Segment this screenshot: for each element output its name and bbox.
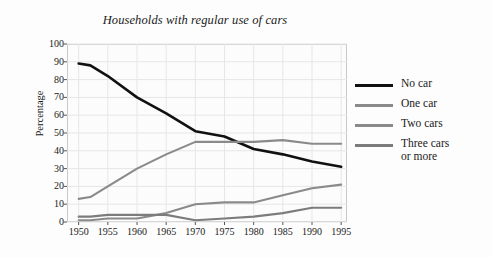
- y-tick-label: 50: [38, 128, 64, 138]
- x-axis-ticks: 1950195519601965197019751980198519901995: [67, 226, 347, 240]
- legend-item-label: No car: [401, 77, 432, 90]
- legend-item[interactable]: Three cars or more: [355, 138, 487, 155]
- series-line: [79, 64, 342, 167]
- legend-item-label: One car: [401, 97, 437, 110]
- legend-swatch-icon: [355, 104, 393, 107]
- y-tick-label: 100: [38, 39, 64, 49]
- legend-item-label: Two cars: [401, 117, 443, 130]
- chart-figure: Households with regular use of cars Perc…: [0, 0, 493, 257]
- data-series: [67, 44, 347, 222]
- y-tick-label: 70: [38, 92, 64, 102]
- chart-legend: No carOne carTwo carsThree cars or more: [355, 78, 487, 158]
- y-tick-label: 40: [38, 146, 64, 156]
- legend-item[interactable]: One car: [355, 98, 487, 115]
- legend-swatch-icon: [355, 124, 393, 127]
- y-tick-label: 20: [38, 181, 64, 191]
- legend-item[interactable]: Two cars: [355, 118, 487, 135]
- x-tick-label: 1995: [321, 226, 361, 237]
- y-tick-label: 10: [38, 199, 64, 209]
- legend-swatch-icon: [355, 84, 393, 87]
- legend-item[interactable]: No car: [355, 78, 487, 95]
- y-tick-label: 30: [38, 164, 64, 174]
- y-tick-label: 80: [38, 75, 64, 85]
- plot-area-wrapper: [67, 44, 347, 222]
- y-tick-label: 90: [38, 57, 64, 67]
- y-axis-ticks: 0102030405060708090100: [36, 44, 64, 222]
- legend-swatch-icon: [355, 144, 393, 147]
- legend-item-label: Three cars or more: [401, 137, 449, 163]
- y-tick-label: 60: [38, 110, 64, 120]
- chart-title: Households with regular use of cars: [40, 13, 350, 28]
